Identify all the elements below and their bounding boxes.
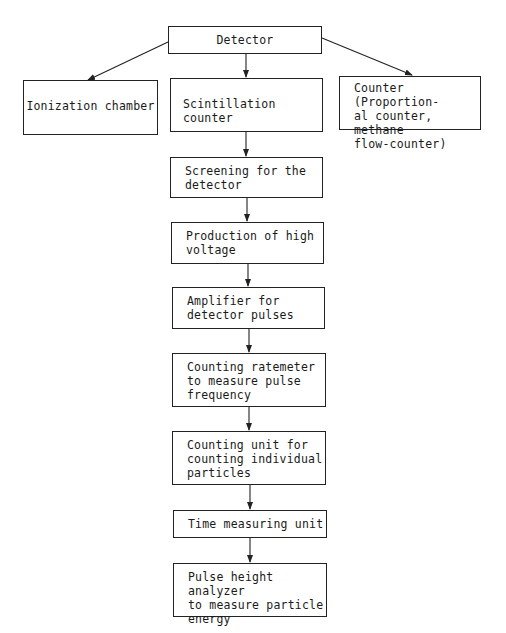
node-screening: Screening for the detector [170,157,323,198]
node-high-voltage: Production of high voltage [171,222,324,264]
node-scintillation-counter: Scintillation counter [170,78,323,132]
node-time-measuring-unit: Time measuring unit [173,510,327,538]
node-amplifier: Amplifier for detector pulses [172,287,325,329]
arrow-detector-counter [322,38,412,75]
node-ratemeter: Counting ratemeter to measure pulse freq… [172,353,326,407]
arrow-detector-ionization [88,42,168,80]
node-pulse-height-analyzer: Pulse height analyzer to measure particl… [173,563,327,617]
node-counter: Counter (Proportion- al counter, methane… [339,76,481,130]
node-counting-unit: Counting unit for counting individual pa… [172,431,326,485]
node-ionization-chamber: Ionization chamber [23,80,158,135]
node-detector: Detector [168,26,322,54]
